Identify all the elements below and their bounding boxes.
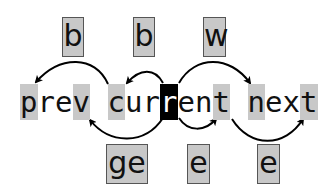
char: c	[108, 84, 126, 120]
key-w-next: w	[203, 17, 226, 57]
arrow-w-next	[179, 62, 250, 83]
char: t	[300, 84, 318, 120]
motion-diagram: b b w p r e v c u r r e n t n e x t ge e…	[0, 0, 336, 196]
char: e	[265, 84, 283, 120]
char: n	[195, 84, 213, 120]
arrow-ge-prev-end	[90, 118, 163, 139]
key-b-current: b	[133, 17, 155, 57]
char: x	[283, 84, 301, 120]
key-e-current-end: e	[187, 144, 210, 184]
text-line: p r e v c u r r e n t n e x t	[20, 84, 318, 120]
char: e	[178, 84, 196, 120]
cursor: r	[160, 84, 178, 120]
arrow-e-next-end	[232, 119, 303, 141]
char: n	[248, 84, 266, 120]
char: u	[125, 84, 143, 120]
char: r	[38, 84, 56, 120]
key-b-prev: b	[62, 17, 84, 57]
char	[90, 84, 108, 120]
char: r	[143, 84, 161, 120]
key-e-next-end: e	[257, 144, 280, 184]
char: p	[20, 84, 38, 120]
arrow-b-prev	[36, 62, 108, 84]
arrow-b-current	[127, 72, 163, 83]
char: v	[73, 84, 91, 120]
key-ge-prev-end: ge	[106, 144, 148, 184]
char: t	[213, 84, 231, 120]
char	[230, 84, 248, 120]
char: e	[55, 84, 73, 120]
